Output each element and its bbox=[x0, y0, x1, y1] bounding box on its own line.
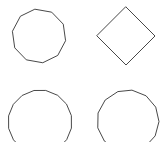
polygon-figure bbox=[0, 0, 163, 142]
figure-background bbox=[0, 0, 163, 142]
shape-canvas-container bbox=[0, 0, 163, 142]
